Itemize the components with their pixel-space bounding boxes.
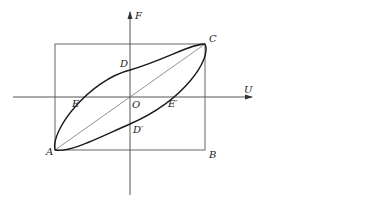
- label-c: C: [209, 33, 217, 44]
- label-d-prime: D′: [132, 124, 144, 135]
- label-a: A: [45, 146, 53, 157]
- label-e-prime: E′: [167, 98, 178, 109]
- label-b: B: [208, 149, 216, 160]
- hysteresis-diagram: F U O C A B D D′ E E′: [0, 0, 370, 208]
- label-o: O: [132, 99, 140, 110]
- label-e: E: [71, 98, 80, 109]
- label-u: U: [244, 84, 253, 95]
- label-f: F: [134, 10, 143, 21]
- label-d: D: [119, 58, 128, 69]
